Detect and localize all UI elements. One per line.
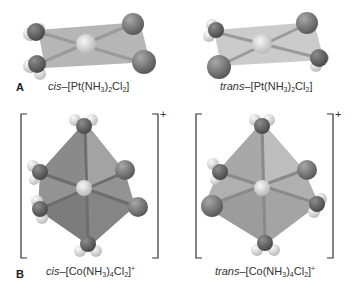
panel-label-b: B [16,268,24,280]
trans-pt-caption: trans–[Pt(NH3)2Cl2] [220,80,312,93]
trans-co-charge: + [335,108,341,120]
caption-part: –[Co(NH [59,265,102,277]
cis-pt-caption: cis–[Pt(NH3)2Cl2] [48,80,129,93]
caption-part: ] [126,80,129,92]
caption-part: –[Pt(NH [244,80,283,92]
caption-part: Cl [294,265,304,277]
caption-prefix: trans [215,265,239,277]
cis-co-charge: + [160,108,166,120]
caption-part: ] [309,80,312,92]
caption-part: Cl [295,80,305,92]
cis-co-caption: cis–[Co(NH3)4Cl2]+ [46,265,135,278]
caption-part: Cl [112,80,122,92]
trans-co-caption: trans–[Co(NH3)4Cl2]+ [215,265,315,278]
panel-label-a: A [16,81,24,93]
cis-pt-molecule: A cis–[Pt(NH3)2Cl2] [0,0,179,100]
trans-co-molecule: + trans–[Co(NH3)4Cl2]+ [179,100,358,288]
caption-part: –[Co(NH [239,265,282,277]
caption-prefix: cis [46,265,59,277]
caption-charge: + [131,265,135,272]
caption-part: Cl [114,265,124,277]
caption-prefix: cis [48,80,61,92]
caption-charge: + [311,265,315,272]
cis-co-structure-graphic [0,100,179,288]
trans-pt-molecule: trans–[Pt(NH3)2Cl2] [179,0,358,100]
cis-co-molecule: + B cis–[Co(NH3)4Cl2]+ [0,100,179,288]
trans-co-structure-graphic [179,100,358,288]
caption-prefix: trans [220,80,244,92]
caption-part: –[Pt(NH [61,80,100,92]
